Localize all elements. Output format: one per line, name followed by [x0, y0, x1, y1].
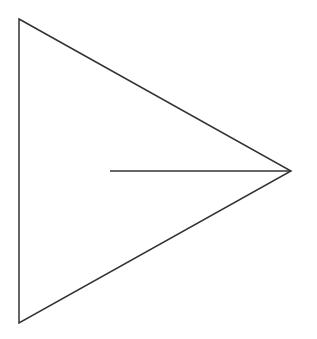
- triangle-diagram: [0, 0, 317, 339]
- diagram-canvas: [0, 0, 317, 339]
